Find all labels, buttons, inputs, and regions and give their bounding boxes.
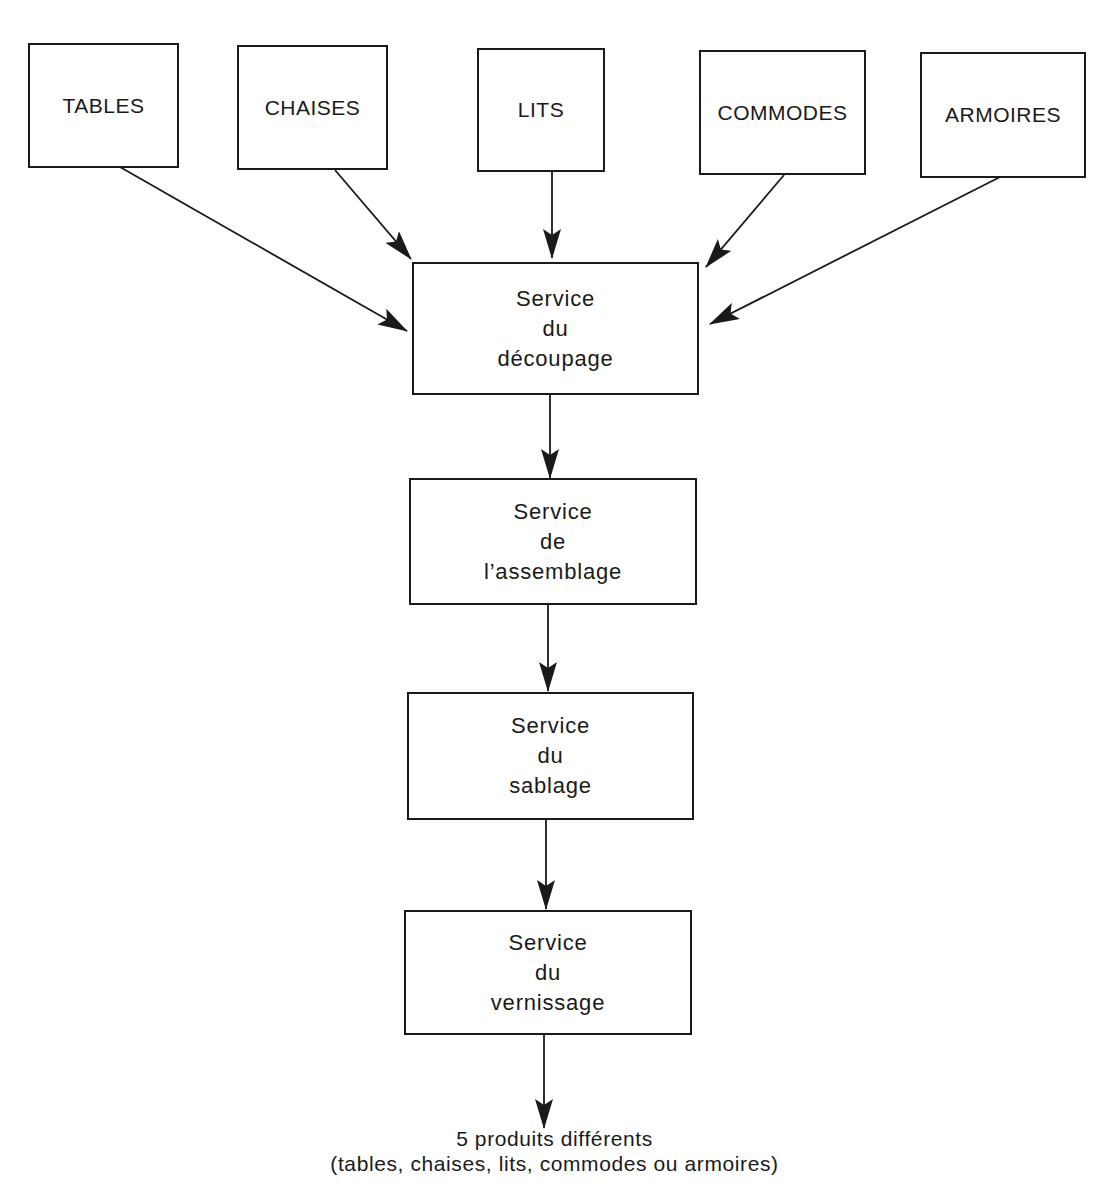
furniture-production-flowchart: TABLES CHAISES LITS COMMODES ARMOIRES Se… — [0, 0, 1109, 1186]
service-decoupage-line1: Service — [516, 284, 595, 314]
product-label-commodes: COMMODES — [718, 101, 848, 125]
product-box-armoires: ARMOIRES — [920, 52, 1086, 178]
service-box-decoupage: Service du découpage — [412, 262, 699, 395]
service-box-vernissage: Service du vernissage — [404, 910, 692, 1035]
service-box-sablage: Service du sablage — [407, 692, 694, 820]
product-label-chaises: CHAISES — [265, 96, 361, 120]
service-decoupage-line3: découpage — [497, 344, 613, 374]
service-assemblage-line3: l’assemblage — [484, 557, 622, 587]
product-box-commodes: COMMODES — [699, 50, 866, 175]
output-line2: (tables, chaises, lits, commodes ou armo… — [0, 1151, 1109, 1176]
arrow-armoires-to-decoupage — [710, 177, 1000, 324]
product-box-lits: LITS — [477, 48, 605, 172]
product-box-chaises: CHAISES — [237, 45, 388, 170]
service-sablage-line3: sablage — [509, 771, 592, 801]
service-assemblage-line2: de — [540, 527, 566, 557]
arrow-chaises-to-decoupage — [335, 170, 411, 259]
product-box-tables: TABLES — [28, 43, 179, 168]
service-vernissage-line3: vernissage — [491, 988, 605, 1018]
product-label-armoires: ARMOIRES — [945, 103, 1061, 127]
arrow-commodes-to-decoupage — [706, 175, 784, 267]
service-vernissage-line1: Service — [509, 928, 588, 958]
service-decoupage-line2: du — [542, 314, 568, 344]
output-line1: 5 produits différents — [0, 1126, 1109, 1151]
arrow-tables-to-decoupage — [120, 167, 407, 331]
service-vernissage-line2: du — [535, 958, 561, 988]
service-sablage-line2: du — [537, 741, 563, 771]
service-sablage-line1: Service — [511, 711, 590, 741]
service-assemblage-line1: Service — [514, 497, 593, 527]
product-label-lits: LITS — [518, 98, 564, 122]
product-label-tables: TABLES — [63, 94, 145, 118]
output-label: 5 produits différents (tables, chaises, … — [0, 1126, 1109, 1176]
service-box-assemblage: Service de l’assemblage — [409, 478, 697, 605]
